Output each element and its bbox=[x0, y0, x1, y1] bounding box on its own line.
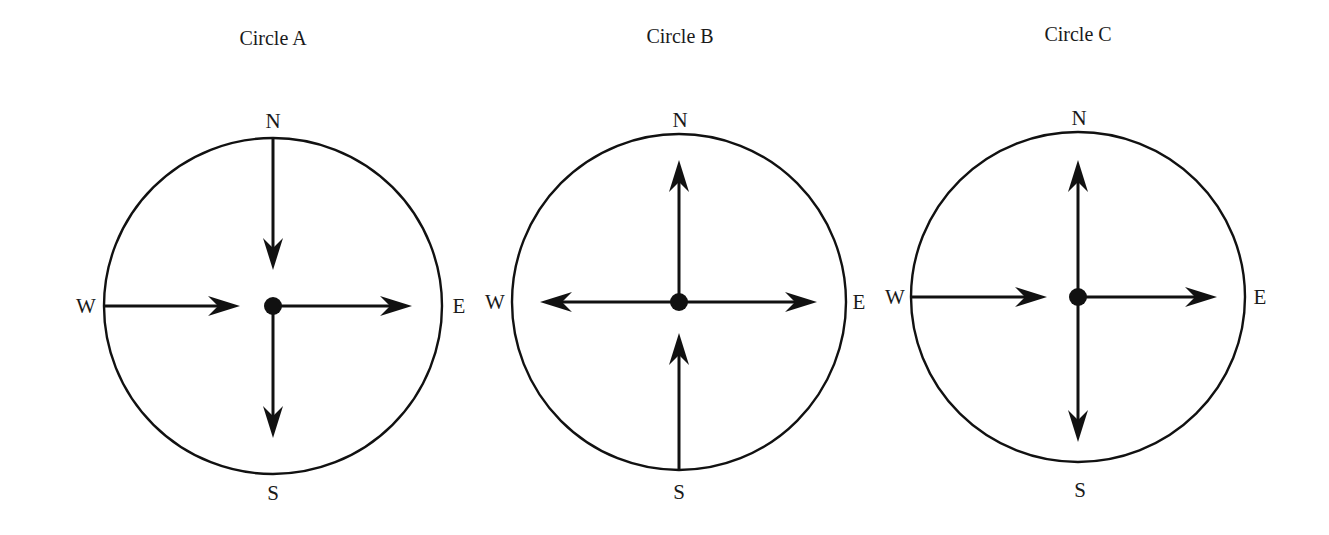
circle-b-arrows bbox=[540, 160, 817, 471]
circle-a-title: Circle A bbox=[239, 27, 307, 49]
circle-b-label-n: N bbox=[672, 108, 687, 132]
circle-c-label-s: S bbox=[1074, 478, 1086, 502]
circle-a-label-s: S bbox=[267, 481, 279, 505]
circle-c-group: Circle C N S E W bbox=[885, 23, 1266, 502]
circle-b-title: Circle B bbox=[646, 25, 713, 47]
circle-b-label-w: W bbox=[485, 290, 505, 314]
circle-c-title: Circle C bbox=[1044, 23, 1111, 45]
circle-a-label-n: N bbox=[265, 109, 280, 133]
circle-a-label-w: W bbox=[76, 294, 96, 318]
circle-b-label-e: E bbox=[853, 290, 866, 314]
circle-a-group: Circle A N S E W bbox=[76, 27, 465, 505]
circle-a-arrows bbox=[104, 138, 412, 438]
circle-c-label-e: E bbox=[1254, 285, 1267, 309]
circle-b-group: Circle B N S E W bbox=[485, 25, 865, 504]
circle-b-label-s: S bbox=[673, 480, 685, 504]
circle-b-center-dot bbox=[670, 293, 688, 311]
circle-c-center-dot bbox=[1069, 288, 1087, 306]
circle-c-arrows bbox=[910, 160, 1217, 442]
circle-c-label-w: W bbox=[885, 285, 905, 309]
compass-diagram: Circle A N S E W Circle B N S E W bbox=[0, 0, 1329, 535]
circle-a-label-e: E bbox=[453, 294, 466, 318]
circle-c-label-n: N bbox=[1071, 106, 1086, 130]
circle-a-center-dot bbox=[264, 297, 282, 315]
